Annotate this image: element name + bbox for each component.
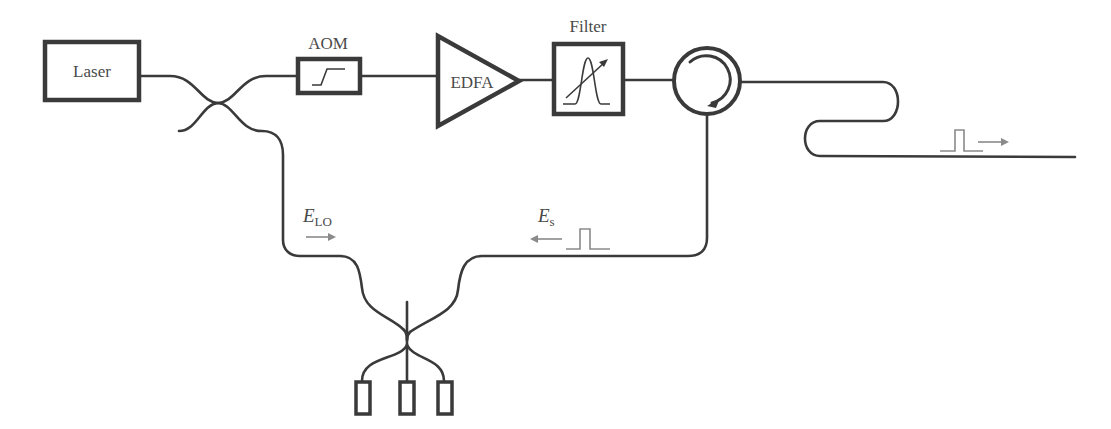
lo-annotation: ELO: [302, 205, 336, 241]
edfa-block: EDFA: [438, 36, 519, 126]
filter-block: Filter: [554, 17, 623, 114]
input-coupler: [139, 76, 404, 330]
arrow-right-icon: [328, 233, 336, 241]
arrow-right-icon: [1001, 138, 1009, 146]
svg-text:ELO: ELO: [302, 205, 332, 229]
svg-text:Es: Es: [537, 205, 555, 229]
filter-label: Filter: [570, 17, 607, 36]
detector-2: [400, 382, 414, 414]
laser-label: Laser: [73, 62, 111, 81]
signal-symbol: E: [537, 205, 550, 226]
detector-3: [438, 382, 452, 414]
arrow-left-icon: [530, 235, 538, 243]
laser-block: Laser: [45, 42, 139, 100]
signal-annotation: Es: [530, 205, 610, 249]
aom-label: AOM: [308, 34, 348, 53]
signal-subscript: s: [550, 214, 555, 229]
fiber-under-test: [740, 82, 1075, 157]
probe-pulse: [940, 130, 1009, 151]
otdr-diagram: Laser AOM EDFA Filter: [0, 0, 1111, 429]
lo-symbol: E: [302, 205, 315, 226]
output-coupler: [362, 302, 444, 381]
edfa-label: EDFA: [450, 73, 494, 92]
photodetectors: [356, 382, 452, 414]
lo-subscript: LO: [315, 214, 332, 229]
signal-path: [410, 114, 707, 332]
aom-block: AOM: [298, 34, 360, 93]
circulator: [674, 48, 740, 114]
detector-1: [356, 382, 370, 414]
